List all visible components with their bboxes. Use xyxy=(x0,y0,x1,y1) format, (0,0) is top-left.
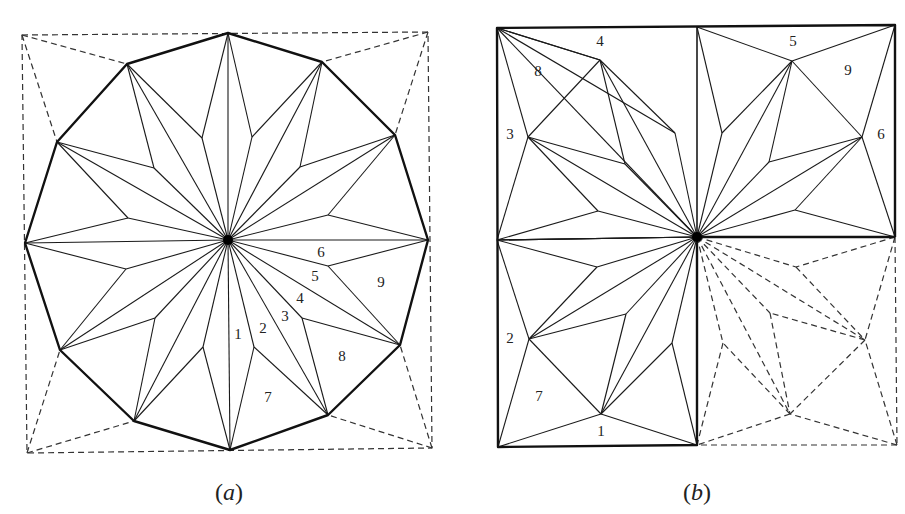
star-edge xyxy=(252,62,322,137)
star-edge xyxy=(328,215,428,240)
star-edge xyxy=(497,28,675,133)
corner-edge xyxy=(22,35,57,142)
star-edge xyxy=(601,314,626,414)
region-label-2: 2 xyxy=(259,320,267,336)
region-label-5: 5 xyxy=(789,33,797,49)
region-label-2: 2 xyxy=(506,330,514,346)
region-label-8: 8 xyxy=(338,348,346,364)
outer-edge xyxy=(865,237,895,340)
inner-spoke xyxy=(672,237,697,343)
outer-edge xyxy=(497,137,528,240)
star-edge xyxy=(202,33,228,138)
region-label-6: 6 xyxy=(317,244,325,260)
corner-edge xyxy=(27,421,134,453)
spoke xyxy=(228,240,328,415)
inner-spoke xyxy=(597,237,697,267)
center-horizontal xyxy=(497,237,697,240)
center-point xyxy=(692,232,702,242)
star-edge xyxy=(769,137,862,162)
outer-edge xyxy=(697,414,790,445)
star-edge xyxy=(672,343,697,445)
star-edge xyxy=(328,266,400,345)
corner-edge xyxy=(865,340,897,445)
star-edge xyxy=(770,313,865,340)
spoke xyxy=(127,64,228,240)
inner-spoke xyxy=(203,240,228,347)
inner-spoke xyxy=(126,240,228,269)
corner-edge xyxy=(790,414,897,445)
star-edge xyxy=(795,137,862,210)
star-edge xyxy=(601,343,672,414)
region-label-8: 8 xyxy=(534,63,542,79)
spoke xyxy=(57,142,228,240)
spoke xyxy=(600,60,697,237)
region-label-3: 3 xyxy=(506,126,514,142)
star-edge xyxy=(60,269,126,350)
region-label-6: 6 xyxy=(877,126,885,142)
inner-spoke xyxy=(675,133,697,237)
corner-edge xyxy=(22,35,127,64)
star-edge xyxy=(57,142,154,168)
star-edge xyxy=(127,64,202,138)
inner-spoke xyxy=(697,210,795,237)
star-edge xyxy=(203,347,230,450)
outer-edge xyxy=(697,27,792,61)
star-edge xyxy=(57,142,128,218)
spoke xyxy=(228,62,322,240)
spoke xyxy=(25,240,228,243)
star-edge xyxy=(302,318,400,345)
inner-spoke xyxy=(228,137,252,240)
star-edge xyxy=(497,211,598,240)
star-edge xyxy=(300,62,322,167)
star-edge xyxy=(600,60,675,133)
star-edge xyxy=(529,267,597,339)
inner-spoke xyxy=(228,215,328,240)
spoke xyxy=(228,240,400,345)
corner-edge xyxy=(400,345,432,448)
corner-edge xyxy=(792,25,895,61)
star-edge xyxy=(134,347,203,421)
inner-spoke xyxy=(697,237,723,343)
spoke xyxy=(528,137,697,237)
spoke xyxy=(60,240,228,350)
outer-edge xyxy=(601,414,697,445)
star-edge xyxy=(25,243,126,269)
region-label-9: 9 xyxy=(377,274,385,290)
star-edge xyxy=(302,318,328,415)
star-edge xyxy=(25,218,128,243)
inner-spoke xyxy=(697,133,722,237)
spoke xyxy=(529,237,697,339)
star-edge xyxy=(497,240,597,267)
star-edge xyxy=(795,210,895,237)
region-label-9: 9 xyxy=(844,62,852,78)
region-label-7: 7 xyxy=(535,388,543,404)
region-label-5: 5 xyxy=(311,268,319,284)
star-edge xyxy=(528,137,598,211)
star-edge xyxy=(528,137,625,164)
spoke xyxy=(228,135,395,240)
star-edge xyxy=(300,135,395,167)
corner-edge xyxy=(328,415,432,448)
star-edge xyxy=(127,64,154,168)
figure-b-square-tiling: 483596271 xyxy=(497,25,897,447)
star-edge xyxy=(723,343,790,414)
region-label-4: 4 xyxy=(596,33,604,49)
caption-a: (a) xyxy=(215,479,243,505)
region-label-7: 7 xyxy=(264,389,272,405)
inner-spoke xyxy=(202,138,228,240)
star-edge xyxy=(770,313,790,414)
center-point xyxy=(223,235,233,245)
inner-spoke xyxy=(228,167,300,240)
spoke xyxy=(697,137,862,237)
region-label-4: 4 xyxy=(296,290,304,306)
corner-edge xyxy=(322,32,428,62)
region-label-3: 3 xyxy=(281,308,289,324)
star-edge xyxy=(697,343,723,445)
corner-edge xyxy=(395,32,428,135)
outer-edge xyxy=(497,240,529,339)
spoke xyxy=(134,240,228,421)
spoke xyxy=(228,240,230,450)
corner-edge xyxy=(498,414,601,447)
outer-edge xyxy=(790,340,865,414)
star-edge xyxy=(328,135,395,215)
